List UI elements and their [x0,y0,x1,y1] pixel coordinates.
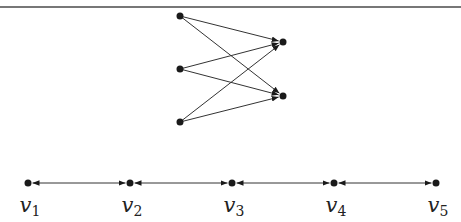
path-node-v1 [25,180,32,187]
node-label-v2: v2 [122,193,143,219]
graph-node [177,13,184,20]
path-node-v2 [127,180,134,187]
node-label-v3: v3 [224,193,245,219]
graph-node [177,119,184,126]
graph-diagram [0,0,461,222]
path-node-v5 [433,180,440,187]
path-node-v4 [331,180,338,187]
bipartite-edge [180,97,279,122]
node-label-v1: v1 [20,193,41,219]
graph-node [280,93,287,100]
bipartite-edges [180,16,279,122]
path-node-v3 [229,180,236,187]
bipartite-edge [180,69,279,95]
node-label-v5: v5 [428,193,449,219]
node-label-v4: v4 [326,193,347,219]
graph-node [177,66,184,73]
bipartite-edge [180,16,279,41]
graph-node [280,39,287,46]
bipartite-edge [180,43,279,69]
